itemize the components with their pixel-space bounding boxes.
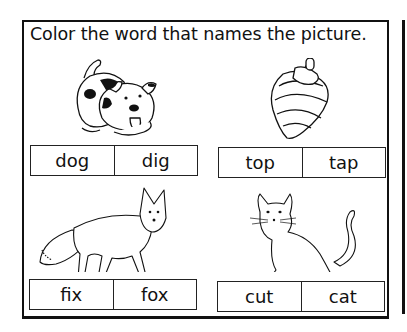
word-choice-cut[interactable]: cut — [218, 282, 301, 311]
next-worksheet-frame-edge — [402, 20, 407, 314]
word-choice-dog[interactable]: dog — [31, 146, 114, 175]
fox-picture — [32, 184, 182, 272]
cat-picture — [246, 190, 356, 272]
dog-picture — [68, 58, 168, 140]
word-choice-dig[interactable]: dig — [114, 146, 198, 175]
spinning-top-picture — [265, 58, 337, 140]
word-choice-fox[interactable]: fox — [113, 280, 197, 309]
word-choice-row-fox: fix fox — [29, 279, 197, 310]
word-choice-fix[interactable]: fix — [30, 280, 113, 309]
word-choice-tap[interactable]: tap — [302, 148, 386, 177]
word-choice-cat[interactable]: cat — [301, 282, 385, 311]
word-choice-row-cat: cut cat — [217, 281, 385, 312]
instruction-text: Color the word that names the picture. — [30, 24, 367, 44]
word-choice-top[interactable]: top — [219, 148, 302, 177]
word-choice-row-dog: dog dig — [30, 145, 198, 176]
word-choice-row-top: top tap — [218, 147, 386, 178]
